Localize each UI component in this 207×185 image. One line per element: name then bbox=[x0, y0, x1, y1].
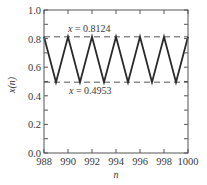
axis-ticks bbox=[44, 10, 188, 153]
x-tick-label: 998 bbox=[156, 156, 172, 167]
x-tick-label: 990 bbox=[60, 156, 76, 167]
y-tick-label: 0.4 bbox=[28, 91, 42, 102]
y-tick-label: 1.0 bbox=[28, 5, 41, 16]
y-axis-title: x(n) bbox=[6, 76, 18, 94]
annotation-lower-value: = 0.4953 bbox=[73, 85, 111, 96]
chart-svg: 0.00.20.40.60.81.0 988990992994996998100… bbox=[0, 0, 207, 185]
y-tick-label: 0.2 bbox=[28, 119, 41, 130]
x-tick-label: 988 bbox=[36, 156, 52, 167]
annotation-upper-value: = 0.8124 bbox=[72, 23, 110, 34]
x-tick-label: 994 bbox=[108, 156, 125, 167]
x-tick-label: 996 bbox=[132, 156, 148, 167]
plot-frame bbox=[44, 10, 188, 153]
series-line-0 bbox=[44, 37, 188, 82]
y-tick-label: 0.6 bbox=[28, 62, 41, 73]
x-tick-label: 1000 bbox=[178, 156, 199, 167]
y-tick-labels: 0.00.20.40.60.81.0 bbox=[28, 5, 42, 159]
chart-container: 0.00.20.40.60.81.0 988990992994996998100… bbox=[0, 0, 207, 185]
y-tick-label: 0.8 bbox=[28, 34, 41, 45]
x-tick-labels: 9889909929949969981000 bbox=[36, 156, 198, 167]
x-tick-label: 992 bbox=[84, 156, 100, 167]
x-axis-title: n bbox=[114, 169, 119, 180]
data-series bbox=[44, 37, 188, 82]
annotation-upper: x = 0.8124 bbox=[67, 23, 111, 34]
annotation-lower: x = 0.4953 bbox=[68, 85, 112, 96]
